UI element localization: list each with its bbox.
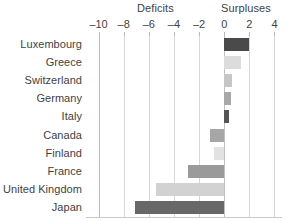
category-label: Germany [0,92,82,105]
bar [224,110,229,123]
plot-area [86,36,282,217]
bar-row [86,72,282,90]
bar [214,147,224,160]
surpluses-header: Surpluses [221,2,271,14]
x-axis-baseline [86,217,282,218]
x-axis-tick-labels: –10–8–6–4–2024 [0,18,296,32]
y-axis-category-labels: LuxembourgGreeceSwitzerlandGermanyItalyC… [0,36,82,217]
bar [156,183,224,196]
bar-row [86,145,282,163]
x-tick-label: –6 [143,18,155,30]
x-tick-label: 2 [246,18,252,30]
bar-row [86,108,282,126]
bar [224,38,249,51]
bar-row [86,36,282,54]
bar-row [86,163,282,181]
bar [224,56,240,69]
category-label: Italy [0,110,82,123]
x-tick-label: –10 [89,18,107,30]
bar-row [86,199,282,217]
category-label: Switzerland [0,74,82,87]
x-tick-label: 0 [221,18,227,30]
category-label: Canada [0,129,82,142]
category-label: Greece [0,56,82,69]
x-tick-label: –2 [193,18,205,30]
category-label: Finland [0,147,82,160]
bar-row [86,181,282,199]
x-tick-label: 4 [271,18,277,30]
category-label: United Kingdom [0,183,82,196]
x-tick-label: –4 [168,18,180,30]
bar-row [86,90,282,108]
section-headers: Deficits Surpluses [0,2,296,18]
bar-row [86,54,282,72]
x-tick-label: –8 [118,18,130,30]
bar [188,165,224,178]
bar [224,92,231,105]
category-label: Japan [0,201,82,214]
deficits-header: Deficits [137,2,174,14]
bar-row [86,127,282,145]
category-label: France [0,165,82,178]
bar [224,74,232,87]
category-label: Luxembourg [0,38,82,51]
bar [135,201,224,214]
bar [210,129,224,142]
deficits-surpluses-bar-chart: Deficits Surpluses –10–8–6–4–2024 Luxemb… [0,0,296,221]
